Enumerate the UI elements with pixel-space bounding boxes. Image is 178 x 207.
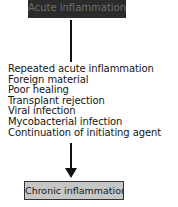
arrow-down-icon: [65, 168, 77, 178]
cause-item: Mycobacterial infection: [8, 117, 161, 128]
cause-item: Continuation of initiating agent: [8, 128, 161, 139]
causes-list: Repeated acute inflammation Foreign mate…: [8, 64, 161, 138]
connector-line: [70, 20, 72, 62]
arrow-down-icon-shaft: [70, 143, 72, 170]
cause-item: Repeated acute inflammation: [8, 64, 161, 75]
acute-inflammation-node: Acute inflammation: [28, 0, 126, 18]
chronic-inflammation-node: Chronic inflammation: [24, 181, 124, 200]
